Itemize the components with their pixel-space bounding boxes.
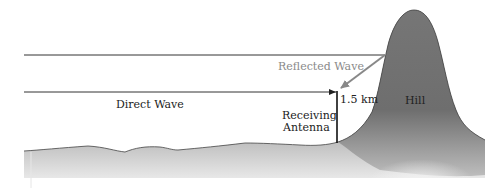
height-label: 1.5 km: [340, 93, 379, 106]
reflected-wave-label: Reflected Wave: [278, 60, 364, 73]
hill-label: Hill: [405, 94, 426, 107]
antenna-label-line2: Antenna: [282, 121, 330, 134]
radio-propagation-diagram: Direct Wave Reflected Wave 1.5 km Receiv…: [0, 0, 495, 196]
direct-wave-label: Direct Wave: [116, 98, 184, 111]
